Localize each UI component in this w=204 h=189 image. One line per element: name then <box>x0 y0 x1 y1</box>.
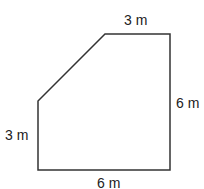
label-right-edge: 6 m <box>176 96 199 110</box>
pentagon-shape <box>38 34 170 170</box>
label-left-edge: 3 m <box>5 128 28 142</box>
label-bottom-edge: 6 m <box>97 176 120 189</box>
label-top-edge: 3 m <box>124 13 147 27</box>
pentagon-figure <box>0 0 204 189</box>
